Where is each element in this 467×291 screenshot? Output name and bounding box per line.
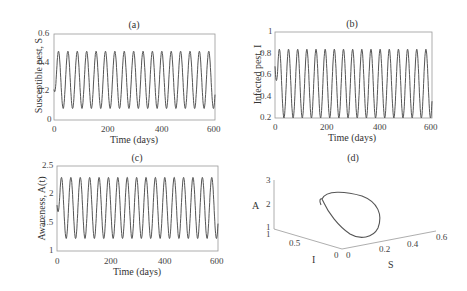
panel-a-frame xyxy=(54,34,215,120)
panel-b-curve xyxy=(275,49,432,118)
panel-b-frame xyxy=(275,32,432,118)
panel-a-curve xyxy=(54,51,215,108)
panel-d-axes xyxy=(274,180,436,249)
panel-c-curve xyxy=(57,177,218,238)
panel-d-limit-cycle xyxy=(320,192,380,237)
plot-canvas xyxy=(0,0,467,291)
